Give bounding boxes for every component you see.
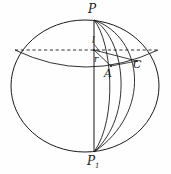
label-south-pole-base: P: [87, 154, 95, 168]
figure-canvas: [0, 0, 171, 174]
sphere-diagram: P P1 A C l r: [0, 0, 171, 174]
label-north-pole: P: [88, 3, 96, 15]
label-south-pole-subscript: 1: [95, 162, 99, 170]
sphere-outline: [11, 20, 159, 152]
label-south-pole: P1: [87, 155, 100, 170]
node-center: [93, 49, 95, 51]
label-point-a: A: [104, 68, 112, 79]
meridian-middle: [94, 20, 121, 152]
meridian-inner: [94, 20, 110, 152]
meridian-outer: [94, 20, 135, 152]
label-segment-l: l: [92, 36, 95, 45]
label-point-c: C: [133, 59, 141, 70]
label-segment-r: r: [94, 55, 98, 64]
